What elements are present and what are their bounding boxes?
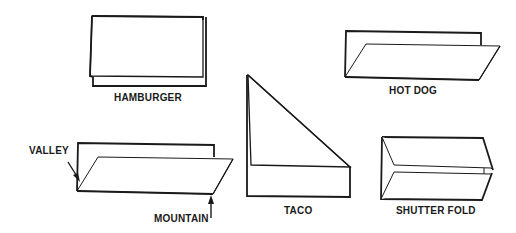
shutter-fold-illustration — [381, 137, 493, 200]
mountain-arrowhead-icon — [208, 195, 214, 204]
hot-dog-label: HOT DOG — [389, 85, 437, 96]
valley-label: VALLEY — [29, 145, 69, 156]
taco-label: TACO — [284, 205, 312, 216]
shutter-fold-label: SHUTTER FOLD — [396, 205, 476, 216]
hot-dog-fold-illustration — [345, 31, 500, 80]
hamburger-label: HAMBURGER — [114, 92, 182, 103]
valley-mountain-fold-illustration — [68, 143, 233, 218]
taco-fold-illustration — [247, 75, 350, 197]
fold-diagram — [0, 0, 516, 233]
mountain-label: MOUNTAIN — [154, 213, 209, 224]
hamburger-fold-illustration — [90, 16, 206, 86]
